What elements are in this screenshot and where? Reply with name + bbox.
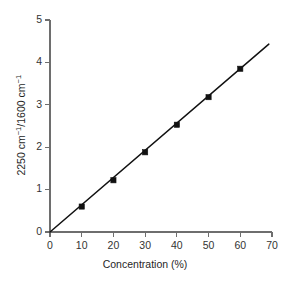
x-axis-title: Concentration (%) (0, 258, 290, 270)
x-tick-label: 60 (234, 239, 246, 251)
x-tick-label: 30 (139, 239, 151, 251)
y-axis-title-mid: /1600 cm (15, 83, 27, 126)
y-tick-label: 5 (36, 13, 42, 25)
data-point (111, 178, 116, 183)
x-tick-label: 0 (47, 239, 53, 251)
chart-plot-area: 010203040506070 012345 (0, 0, 290, 282)
y-axis-title-sup-1: −1 (13, 126, 22, 135)
y-tick-label: 2 (36, 140, 42, 152)
x-tick-label: 20 (108, 239, 120, 251)
y-axis-ticks (45, 20, 50, 232)
y-tick-label: 1 (36, 182, 42, 194)
y-axis-title-wrapper: 2250 cm−1/1600 cm−1 (8, 0, 34, 250)
x-tick-label: 10 (76, 239, 88, 251)
x-tick-label: 40 (171, 239, 183, 251)
data-series (50, 44, 269, 232)
y-axis-title: 2250 cm−1/1600 cm−1 (16, 75, 27, 176)
data-point (174, 122, 179, 127)
y-axis-tick-labels: 012345 (36, 13, 42, 237)
y-axis-title-lead: 2250 cm (15, 135, 27, 175)
y-tick-label: 3 (36, 98, 42, 110)
data-point (143, 150, 148, 155)
y-axis-title-sup-2: −1 (13, 75, 22, 84)
data-point (238, 66, 243, 71)
axes (50, 20, 272, 232)
y-tick-label: 4 (36, 55, 42, 67)
y-tick-label: 0 (36, 225, 42, 237)
x-tick-label: 70 (266, 239, 278, 251)
x-axis-tick-labels: 010203040506070 (47, 239, 278, 251)
x-tick-label: 50 (203, 239, 215, 251)
data-point (79, 204, 84, 209)
data-point (206, 95, 211, 100)
chart-figure: 010203040506070 012345 2250 cm−1/1600 cm… (0, 0, 290, 282)
x-axis-ticks (50, 232, 272, 237)
